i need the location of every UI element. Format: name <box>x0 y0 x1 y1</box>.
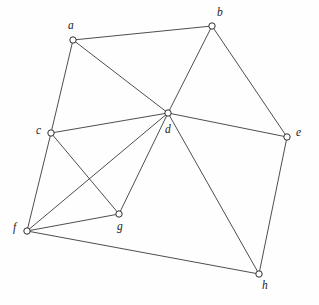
graph-edge-a-c <box>51 40 73 133</box>
vertex-label-f: f <box>13 222 16 234</box>
vertex-layer <box>24 23 290 277</box>
vertex-label-a: a <box>68 20 74 32</box>
vertex-label-g: g <box>117 221 123 233</box>
vertex-label-h: h <box>262 280 268 292</box>
graph-vertex-c[interactable] <box>48 130 54 136</box>
graph-edge-c-d <box>51 113 168 133</box>
graph-figure: abcdefgh <box>0 0 319 305</box>
graph-vertex-g[interactable] <box>116 211 122 217</box>
graph-edge-e-h <box>259 137 287 274</box>
edge-layer <box>27 26 287 274</box>
graph-vertex-h[interactable] <box>256 271 262 277</box>
vertex-label-e: e <box>296 127 301 139</box>
graph-vertex-d[interactable] <box>165 110 171 116</box>
graph-edge-d-g <box>119 113 168 214</box>
graph-edge-d-h <box>168 113 259 274</box>
graph-edge-f-h <box>27 231 259 274</box>
graph-edge-c-f <box>27 133 51 231</box>
graph-vertex-f[interactable] <box>24 228 30 234</box>
graph-vertex-e[interactable] <box>284 134 290 140</box>
graph-canvas <box>0 0 319 305</box>
vertex-label-c: c <box>36 125 41 137</box>
vertex-label-b: b <box>217 7 223 19</box>
graph-edge-d-e <box>168 113 287 137</box>
graph-vertex-a[interactable] <box>70 37 76 43</box>
graph-edge-b-e <box>212 26 287 137</box>
graph-edge-a-d <box>73 40 168 113</box>
vertex-label-d: d <box>165 124 171 136</box>
graph-edge-f-g <box>27 214 119 231</box>
graph-edge-b-d <box>168 26 212 113</box>
graph-vertex-b[interactable] <box>209 23 215 29</box>
graph-edge-a-b <box>73 26 212 40</box>
